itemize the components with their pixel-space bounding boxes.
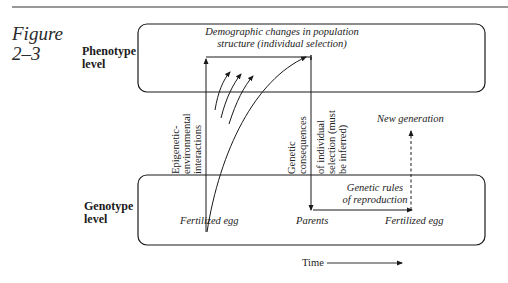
- genotype-level-line2: level: [84, 213, 133, 226]
- genetic-consequences-label-line4: selection (must: [326, 110, 337, 174]
- phenotype-level-label: Phenotype level: [82, 45, 136, 71]
- genetic-rules-line2: of reproduction: [330, 194, 420, 206]
- genetic-rules-label: Genetic rules of reproduction: [330, 182, 420, 206]
- epigenetic-label-line2: environmental: [181, 113, 192, 174]
- figure-label: Figure 2–3: [12, 24, 63, 64]
- phenotype-title-line2: structure (individual selection): [198, 38, 366, 50]
- genetic-consequences-label-line1: Genetic: [286, 141, 297, 174]
- new-generation-label: New generation: [377, 113, 444, 125]
- genetic-consequences-label-line3: of individual: [315, 120, 326, 174]
- epigenetic-label-line1: Epigenetic-: [170, 126, 181, 174]
- curved-arrow-3: [229, 76, 253, 124]
- genotype-level-label: Genotype level: [84, 200, 133, 226]
- figure-number: 2–3: [12, 44, 63, 64]
- parents-label: Parents: [296, 215, 328, 227]
- fertilized-egg-right-label: Fertilized egg: [385, 215, 444, 227]
- fertilized-egg-left-label: Fertilized egg: [180, 215, 239, 227]
- phenotype-level-line2: level: [82, 58, 136, 71]
- phenotype-title-line1: Demographic changes in population: [198, 26, 366, 38]
- genetic-consequences-label-line5: be inferred): [337, 125, 348, 174]
- epigenetic-label-line3: interactions: [192, 125, 203, 174]
- time-axis-label: Time: [302, 257, 324, 269]
- phenotype-box-title: Demographic changes in population struct…: [198, 26, 366, 50]
- curved-arrow-1: [215, 72, 230, 110]
- genetic-consequences-label-line2: consequences: [297, 116, 308, 174]
- figure-label-word: Figure: [12, 24, 63, 44]
- genetic-rules-line1: Genetic rules: [330, 182, 420, 194]
